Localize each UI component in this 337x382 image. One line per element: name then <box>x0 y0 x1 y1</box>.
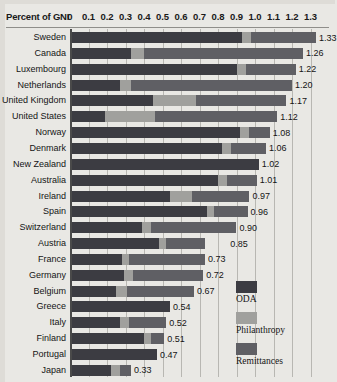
x-tick-0.4: 0.4 <box>137 11 150 22</box>
bar-segment-rem <box>129 254 205 265</box>
bar-segment-oda <box>70 365 111 376</box>
bar-row: New Zealand1.02 <box>0 156 335 173</box>
x-tick-0.9: 0.9 <box>230 11 243 22</box>
bar-value-label: 1.01 <box>260 175 278 186</box>
category-label: France <box>0 251 66 268</box>
bar-value-label: 1.20 <box>295 80 313 91</box>
bar-segment-oda <box>70 222 142 233</box>
bar-segment-phil <box>105 111 155 122</box>
bar-segment-oda <box>70 64 237 75</box>
bar-segment-rem <box>144 48 303 59</box>
stacked-bar <box>70 175 257 186</box>
bar-segment-phil <box>153 95 196 106</box>
chart-legend: ODAPhilanthropyRemittances <box>236 281 285 374</box>
x-tick-1.3: 1.3 <box>304 11 317 22</box>
stacked-bar <box>70 32 316 43</box>
bar-segment-rem <box>196 95 287 106</box>
stacked-bar <box>70 238 205 249</box>
category-label: Denmark <box>0 140 66 157</box>
category-label: United Kingdom <box>0 92 66 109</box>
bar-segment-phil <box>237 64 246 75</box>
stacked-bar <box>70 222 236 233</box>
bar-row: United Kingdom1.17 <box>0 92 335 109</box>
bar-value-label: 0.67 <box>197 286 215 297</box>
category-label: Luxembourg <box>0 61 66 78</box>
x-tick-1.0: 1.0 <box>248 11 261 22</box>
bar-value-label: 1.33 <box>319 32 337 43</box>
bar-row: Sweden1.33 <box>0 29 335 46</box>
bar-segment-rem <box>251 32 316 43</box>
bar-segment-oda <box>70 95 153 106</box>
category-label: Canada <box>0 45 66 62</box>
bar-segment-oda <box>70 143 222 154</box>
stacked-bar <box>70 270 203 281</box>
bar-segment-oda <box>70 111 105 122</box>
bar-row: Australia1.01 <box>0 172 335 189</box>
bar-value-label: 0.73 <box>208 254 226 265</box>
bar-segment-rem <box>151 333 164 344</box>
bar-segment-phil <box>222 143 231 154</box>
x-tick-1.2: 1.2 <box>285 11 298 22</box>
bar-row: Spain0.96 <box>0 203 335 220</box>
category-label: New Zealand <box>0 156 66 173</box>
x-tick-0.3: 0.3 <box>119 11 132 22</box>
top-edge <box>0 0 335 4</box>
category-label: Ireland <box>0 188 66 205</box>
bar-segment-phil <box>111 365 120 376</box>
bar-row: Austria0.85 <box>0 235 335 252</box>
x-tick-0: 0 <box>67 11 72 22</box>
legend-label-oda: ODA <box>236 294 285 304</box>
bar-segment-rem <box>166 238 205 249</box>
bar-segment-phil <box>122 254 129 265</box>
bar-segment-oda <box>70 32 242 43</box>
x-axis-header: Percent of GNI 00.10.20.30.40.50.60.70.8… <box>0 10 335 26</box>
bar-segment-oda <box>70 191 170 202</box>
stacked-bar <box>70 191 249 202</box>
header-rule <box>6 27 329 28</box>
legend-swatch-phil <box>236 312 257 324</box>
stacked-bar <box>70 159 259 170</box>
stacked-bar <box>70 349 157 360</box>
category-label: Belgium <box>0 283 66 300</box>
stacked-bar <box>70 143 266 154</box>
bar-value-label: 0.47 <box>160 349 178 360</box>
stacked-bar <box>70 64 296 75</box>
category-label: Spain <box>0 203 66 220</box>
category-label: Japan <box>0 362 66 379</box>
bar-value-label: 1.02 <box>262 159 280 170</box>
x-tick-0.7: 0.7 <box>193 11 206 22</box>
stacked-bar <box>70 286 194 297</box>
category-label: Australia <box>0 172 66 189</box>
category-label: Portugal <box>0 346 66 363</box>
bar-segment-phil <box>116 286 127 297</box>
bar-value-label: 0.51 <box>167 333 185 344</box>
bar-segment-rem <box>227 175 257 186</box>
bar-row: United States1.12 <box>0 108 335 125</box>
bar-segment-oda <box>70 238 159 249</box>
x-tick-0.8: 0.8 <box>211 11 224 22</box>
bar-segment-phil <box>240 127 249 138</box>
category-label: United States <box>0 108 66 125</box>
stacked-bar <box>70 365 131 376</box>
category-label: Greece <box>0 298 66 315</box>
bar-segment-phil <box>218 175 227 186</box>
bar-segment-rem <box>131 80 292 91</box>
bar-segment-oda <box>70 80 120 91</box>
bar-value-label: 1.26 <box>306 48 324 59</box>
stacked-bar <box>70 48 303 59</box>
category-label: Finland <box>0 330 66 347</box>
category-label: Italy <box>0 314 66 331</box>
stacked-bar <box>70 111 277 122</box>
bar-segment-oda <box>70 206 207 217</box>
bar-segment-rem <box>231 143 266 154</box>
category-label: Switzerland <box>0 219 66 236</box>
legend-item-phil: Philanthropy <box>236 312 285 335</box>
category-label: Austria <box>0 235 66 252</box>
x-tick-0.1: 0.1 <box>82 11 95 22</box>
category-label: Norway <box>0 124 66 141</box>
bar-row: France0.73 <box>0 251 335 268</box>
legend-item-rem: Remittances <box>236 343 285 366</box>
bar-segment-oda <box>70 48 131 59</box>
x-axis-title: Percent of GNI <box>6 11 69 22</box>
bar-segment-oda <box>70 254 122 265</box>
